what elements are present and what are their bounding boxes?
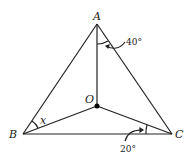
segment-bo — [23, 106, 97, 134]
angle-arc-abo — [32, 121, 38, 128]
arrowhead-20 — [140, 128, 143, 132]
point-label-a: A — [92, 10, 101, 23]
arrowhead-40 — [106, 45, 109, 48]
point-label-o: O — [85, 93, 94, 106]
point-o-dot — [95, 104, 100, 109]
angle-leader-20 — [125, 130, 141, 141]
point-label-c: C — [175, 128, 184, 141]
geometry-diagram: A B C O 40° 20° x — [0, 0, 194, 163]
angle-label-20: 20° — [120, 144, 136, 154]
point-label-b: B — [8, 128, 17, 141]
angle-label-40: 40° — [126, 37, 142, 47]
angle-arc-ocb — [146, 125, 147, 134]
segment-co — [97, 106, 172, 134]
angle-arc-oac — [97, 41, 108, 44]
angle-label-x: x — [40, 114, 47, 127]
segment-ab — [23, 24, 97, 134]
